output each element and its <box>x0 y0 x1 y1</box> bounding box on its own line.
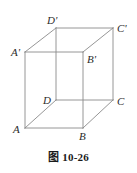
edge-B1-C1 <box>83 28 113 52</box>
vertex-label-D: D <box>42 94 51 106</box>
caption-number: 10-26 <box>62 151 89 163</box>
vertex-label-D1: D' <box>46 14 58 26</box>
edge-D-A <box>25 100 56 128</box>
edge-B-C <box>83 100 113 128</box>
cube-edges <box>25 28 113 128</box>
figure-page: ABCDA'B'C'D' 图10-26 <box>0 0 137 173</box>
figure-caption: 图10-26 <box>0 148 137 164</box>
vertex-label-A: A <box>12 123 20 135</box>
vertex-label-C1: C' <box>117 22 127 34</box>
vertex-label-C: C <box>117 95 125 107</box>
vertex-label-B: B <box>79 130 86 142</box>
vertex-label-A1: A' <box>10 46 21 58</box>
edge-D1-A1 <box>25 28 56 52</box>
vertex-label-B1: B' <box>87 53 97 65</box>
caption-prefix: 图 <box>48 151 59 164</box>
cube-vertex-labels: ABCDA'B'C'D' <box>10 14 127 142</box>
